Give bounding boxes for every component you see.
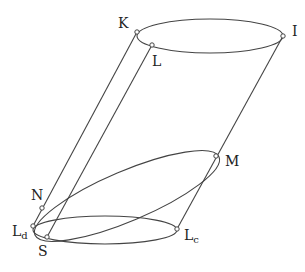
label-Lc: Lc xyxy=(184,227,199,245)
label-S: S xyxy=(38,243,48,259)
label-Ld: Ld xyxy=(12,223,28,241)
cylinder-diagram: K L I M N Ld S Lc xyxy=(0,0,305,272)
point-Ld xyxy=(31,224,35,228)
label-L: L xyxy=(152,53,161,69)
label-I: I xyxy=(292,23,298,39)
point-Lc xyxy=(175,227,179,231)
point-K xyxy=(135,30,139,34)
generator-L-S xyxy=(47,45,152,237)
bottom-ellipse xyxy=(33,216,177,244)
top-ellipse xyxy=(137,19,283,53)
label-K: K xyxy=(118,15,129,31)
point-N xyxy=(40,206,44,210)
generator-I-Lc xyxy=(177,36,283,229)
point-S xyxy=(45,235,49,239)
point-L xyxy=(150,43,154,47)
label-N: N xyxy=(31,187,43,203)
generator-K-Ld xyxy=(33,32,137,226)
label-M: M xyxy=(225,153,239,169)
point-M xyxy=(214,154,218,158)
point-I xyxy=(281,34,285,38)
